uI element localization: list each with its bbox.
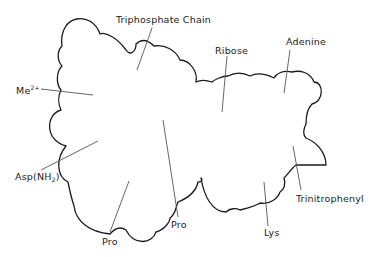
protein-outline [50, 19, 326, 242]
leader-lys [264, 182, 268, 226]
leader-triphosphate [137, 28, 152, 70]
leader-ribose [222, 56, 227, 112]
label-metal-ion-charge: 2+ [30, 84, 39, 91]
label-metal-ion: Me2+ [16, 85, 40, 96]
leader-trinitrophenyl [293, 146, 301, 190]
label-trinitrophenyl: Trinitrophenyl [296, 194, 364, 204]
leader-lines [41, 28, 301, 232]
label-asp-prefix: Asp(NH [15, 171, 52, 182]
leader-pro-right [163, 120, 178, 217]
leader-pro-left [110, 181, 129, 232]
label-ribose: Ribose [215, 46, 248, 56]
protein-outline-svg [0, 0, 386, 257]
label-asp-suffix: ) [56, 171, 60, 182]
label-pro-left: Pro [102, 237, 118, 247]
leader-asp [41, 141, 98, 170]
label-triphosphate-chain: Triphosphate Chain [116, 15, 211, 25]
label-asparagine: Asp(NH2) [15, 172, 60, 183]
label-pro-right: Pro [171, 220, 187, 230]
label-adenine: Adenine [286, 37, 326, 47]
label-lys: Lys [264, 228, 280, 238]
label-metal-ion-base: Me [16, 85, 30, 96]
leader-me [41, 89, 93, 95]
binding-site-diagram: Triphosphate Chain Ribose Adenine Me2+ A… [0, 0, 386, 257]
